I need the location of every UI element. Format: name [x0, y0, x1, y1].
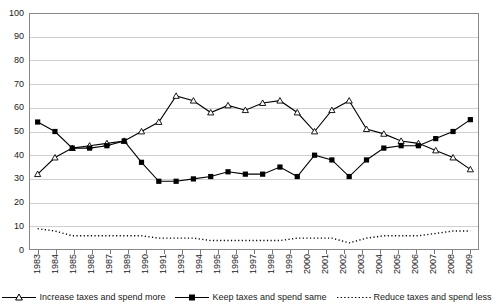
- data-point-marker: [35, 119, 40, 124]
- data-point-marker: [173, 93, 179, 99]
- data-point-marker: [294, 109, 300, 115]
- data-point-marker: [208, 174, 213, 179]
- chart-container: 0102030405060708090100 19831984198519861…: [0, 0, 494, 308]
- x-axis-tick-label: 1986: [87, 254, 96, 274]
- x-axis-tick-label: 1984: [51, 254, 60, 274]
- data-point-marker: [156, 179, 161, 184]
- data-point-marker: [467, 166, 473, 172]
- x-axis-tick-label: 1989: [123, 254, 132, 274]
- data-point-marker: [277, 164, 282, 169]
- x-axis-tick-label: 1995: [213, 254, 222, 274]
- legend-swatch-square-icon: [175, 292, 209, 303]
- x-axis-tick-label: 1998: [267, 254, 276, 274]
- x-axis-tick-label: 1985: [69, 254, 78, 274]
- legend-swatch-dotted-icon: [337, 292, 371, 303]
- data-point-marker: [174, 179, 179, 184]
- series-line-1: [38, 120, 471, 182]
- data-point-marker: [312, 153, 317, 158]
- x-axis-tick-label: 2003: [357, 254, 366, 274]
- data-point-marker: [225, 102, 231, 108]
- data-point-marker: [70, 145, 75, 150]
- x-axis-tick-label: 2000: [303, 254, 312, 274]
- legend-label-keep: Keep taxes and spend same: [212, 292, 326, 302]
- data-point-marker: [450, 129, 455, 134]
- data-point-marker: [52, 129, 57, 134]
- x-axis-tick-label: 2007: [429, 254, 438, 274]
- legend-item-keep: Keep taxes and spend same: [175, 292, 326, 303]
- x-axis-tick-label: 2004: [375, 254, 384, 274]
- data-point-marker: [104, 143, 109, 148]
- data-point-marker: [468, 117, 473, 122]
- data-point-marker: [225, 169, 230, 174]
- x-axis-tick-label: 2009: [465, 254, 474, 274]
- data-point-marker: [139, 160, 144, 165]
- series-layer: [29, 13, 479, 250]
- data-point-marker: [329, 107, 335, 113]
- data-point-marker: [138, 128, 144, 134]
- data-point-marker: [381, 145, 386, 150]
- data-point-marker: [399, 143, 404, 148]
- data-point-marker: [260, 172, 265, 177]
- x-axis-tick-label: 1991: [159, 254, 168, 274]
- x-axis-tick-label: 1997: [249, 254, 258, 274]
- data-point-marker: [243, 172, 248, 177]
- series-line-2: [38, 229, 471, 243]
- data-point-marker: [52, 154, 58, 160]
- data-point-marker: [122, 138, 127, 143]
- data-point-marker: [346, 98, 352, 104]
- x-axis-tick-label: 1993: [177, 254, 186, 274]
- legend-label-increase: Increase taxes and spend more: [39, 292, 165, 302]
- legend-swatch-triangle-icon: [2, 292, 36, 303]
- x-axis-tick-label: 1983: [33, 254, 42, 274]
- data-point-marker: [277, 98, 283, 104]
- x-axis-tick-label: 2002: [339, 254, 348, 274]
- chart-legend: Increase taxes and spend more Keep taxes…: [0, 289, 494, 305]
- data-point-marker: [295, 174, 300, 179]
- data-point-marker: [329, 157, 334, 162]
- x-axis-tick-label: 1999: [285, 254, 294, 274]
- data-point-marker: [433, 136, 438, 141]
- x-axis-tick-label: 1994: [195, 254, 204, 274]
- data-point-marker: [416, 143, 421, 148]
- data-point-marker: [87, 145, 92, 150]
- data-point-marker: [364, 157, 369, 162]
- x-axis-tick-label: 2008: [447, 254, 456, 274]
- series-line-0: [38, 96, 471, 174]
- legend-label-reduce: Reduce taxes and spend less: [374, 292, 492, 302]
- legend-item-reduce: Reduce taxes and spend less: [337, 292, 492, 303]
- data-point-marker: [363, 126, 369, 132]
- x-axis-tick-label: 1990: [141, 254, 150, 274]
- x-axis-tick-label: 1987: [105, 254, 114, 274]
- x-axis-tick-label: 2006: [411, 254, 420, 274]
- x-axis-tick-label: 2005: [393, 254, 402, 274]
- x-axis-tick-label: 1996: [231, 254, 240, 274]
- data-point-marker: [191, 176, 196, 181]
- data-point-marker: [347, 174, 352, 179]
- legend-item-increase: Increase taxes and spend more: [2, 292, 165, 303]
- x-axis-tick-label: 2001: [321, 254, 330, 274]
